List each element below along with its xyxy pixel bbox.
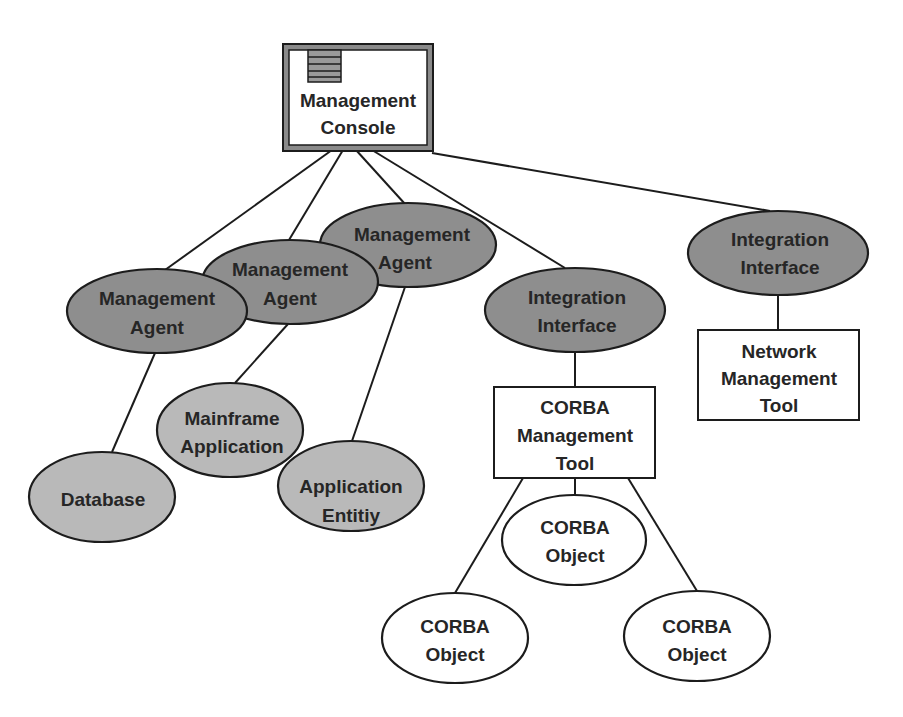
corbaobj-left-line2: Object — [425, 644, 485, 665]
corbaobj-right-line2: Object — [667, 644, 727, 665]
corba-object-middle[interactable]: CORBA Object — [502, 495, 646, 585]
corbatool-label-line2: Management — [517, 425, 634, 446]
edge-agent1-database — [112, 353, 155, 452]
management-agent-1[interactable]: Management Agent — [67, 269, 247, 353]
corbatool-label-line3: Tool — [556, 453, 595, 474]
corbaobj-middle-line1: CORBA — [540, 517, 610, 538]
agent2-label-line1: Management — [232, 259, 349, 280]
database-node[interactable]: Database — [29, 452, 175, 542]
database-label: Database — [61, 489, 146, 510]
integration1-label-line2: Interface — [537, 315, 616, 336]
application-entity-node[interactable]: Application Entitiy — [278, 441, 424, 531]
networktool-label-line1: Network — [742, 341, 817, 362]
edge-agent2-mainframe — [235, 324, 288, 383]
console-label-line1: Management — [300, 90, 417, 111]
mainframe-label-line2: Application — [180, 436, 283, 457]
architecture-diagram: Management Console Management Agent Mana… — [0, 0, 903, 717]
agent3-label-line1: Management — [354, 224, 471, 245]
mainframe-application-node[interactable]: Mainframe Application — [157, 383, 303, 477]
console-label-line2: Console — [321, 117, 396, 138]
edge-console-integration2 — [432, 153, 770, 211]
menu-list-icon — [308, 50, 341, 82]
edge-console-agent3 — [356, 150, 405, 204]
networktool-label-line2: Management — [721, 368, 838, 389]
edge-agent3-appentity — [352, 287, 405, 441]
corba-management-tool-node[interactable]: CORBA Management Tool — [494, 387, 655, 478]
appentity-label-line1: Application — [299, 476, 402, 497]
integration-interface-1[interactable]: Integration Interface — [485, 268, 665, 352]
appentity-label-line2: Entitiy — [322, 505, 380, 526]
corbaobj-right-line1: CORBA — [662, 616, 732, 637]
network-management-tool-node[interactable]: Network Management Tool — [698, 330, 859, 420]
management-console-node[interactable]: Management Console — [283, 44, 433, 151]
integration2-label-line2: Interface — [740, 257, 819, 278]
integration2-label-line1: Integration — [731, 229, 829, 250]
agent1-label-line1: Management — [99, 288, 216, 309]
corba-object-right[interactable]: CORBA Object — [624, 591, 770, 681]
agent3-label-line2: Agent — [378, 252, 433, 273]
corbaobj-left-line1: CORBA — [420, 616, 490, 637]
mainframe-label-line1: Mainframe — [184, 408, 279, 429]
agent1-label-line2: Agent — [130, 317, 185, 338]
integration1-label-line1: Integration — [528, 287, 626, 308]
corbatool-label-line1: CORBA — [540, 397, 610, 418]
corbaobj-middle-line2: Object — [545, 545, 605, 566]
integration-interface-2[interactable]: Integration Interface — [688, 211, 868, 295]
corba-object-left[interactable]: CORBA Object — [382, 593, 528, 683]
agent2-label-line2: Agent — [263, 288, 318, 309]
networktool-label-line3: Tool — [760, 395, 799, 416]
